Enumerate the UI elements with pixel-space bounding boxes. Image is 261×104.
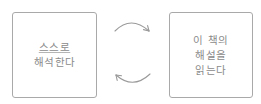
node-self-interpret-line-2: 해석한다 (34, 55, 76, 70)
node-read-commentary-line-2: 해설을 (195, 48, 227, 63)
node-read-commentary-line-1: 이 책의 (193, 33, 228, 48)
curved-arrow-left-icon (116, 74, 150, 82)
node-read-commentary: 이 책의 해설을 읽는다 (169, 12, 253, 98)
node-read-commentary-line-3: 읽는다 (195, 63, 227, 78)
curved-arrow-right-icon (115, 23, 149, 31)
node-self-interpret: 스스로 해석한다 (12, 12, 97, 98)
node-self-interpret-line-1: 스스로 (39, 40, 71, 55)
